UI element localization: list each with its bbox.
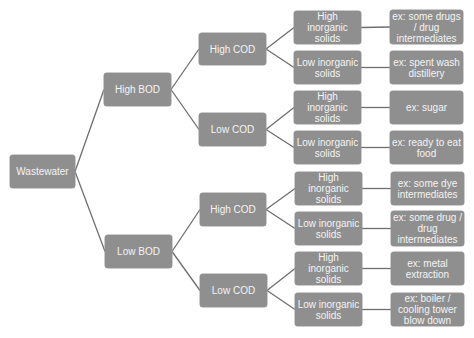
connector-bod-cod [171,90,199,130]
node-solids-4: Low inorganic solids [294,131,361,164]
node-high-bod: High BOD [104,73,171,106]
node-solids-8: Low inorganic solids [295,293,362,326]
connector-bod-cod [172,252,200,291]
node-wastewater: Wastewater [10,155,75,188]
node-solids-5: High inorganic solids [295,172,362,205]
node-solids-1: High inorganic solids [294,11,361,44]
node-solids-3: High inorganic solids [294,91,361,124]
connector-bod-cod [172,210,200,252]
node-low-cod-1: Low COD [199,113,266,146]
connector-wastewater-high-bod [75,90,104,172]
node-solids-7: High inorganic solids [295,252,362,285]
wastewater-classification-tree: Wastewater High BOD Low BOD High COD Low… [0,0,474,338]
node-low-cod-2: Low COD [200,274,267,307]
node-example-7: ex: metal extraction [391,252,464,285]
connector-wastewater-low-bod [75,172,105,252]
node-example-3: ex: sugar [390,91,463,124]
connector-solids-example [361,27,390,28]
connector-bod-cod [171,49,199,90]
node-solids-6: Low inorganic solids [295,212,362,245]
connector-cod-solids [266,189,295,210]
node-solids-2: Low inorganic solids [294,51,361,84]
node-high-cod-1: High COD [199,33,266,65]
node-example-4: ex: ready to eat food [390,131,463,164]
connector-cod-solids [266,130,294,148]
node-example-8: ex: boiler / cooling tower blow down [391,293,464,326]
node-example-6: ex: some drug / drug intermediates [391,211,464,246]
connector-cod-solids [266,28,294,50]
node-example-1: ex: some drugs / drug intermediates [390,10,463,44]
node-example-5: ex: some dye intermediates [391,172,464,205]
node-high-cod-2: High COD [200,193,266,226]
connector-cod-solids [267,291,295,310]
node-low-bod: Low BOD [105,235,172,268]
node-example-2: ex: spent wash distillery [390,51,463,84]
connector-cod-solids [266,210,295,229]
connector-cod-solids [267,269,295,291]
connector-cod-solids [266,108,294,130]
connector-cod-solids [266,49,294,68]
